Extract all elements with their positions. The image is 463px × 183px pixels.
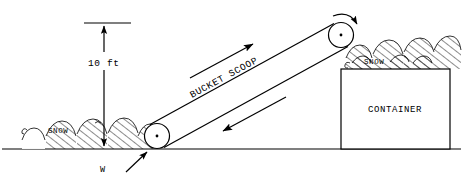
bucket-scoop-diagram: SNOW CONTAINER SNOW — [0, 0, 463, 183]
container-box: CONTAINER — [341, 69, 450, 149]
height-dimension-label: 10 ft — [88, 58, 120, 69]
bottom-pulley — [145, 124, 170, 149]
load-force-indicator: W — [100, 152, 147, 175]
snow-pile-ground: SNOW — [22, 118, 158, 149]
snow-container-label: SNOW — [364, 58, 384, 66]
load-force-label: W — [100, 165, 106, 175]
conveyor-belt — [150, 24, 348, 148]
belt-label: BUCKET SCOOP — [188, 55, 260, 101]
belt-label-group: BUCKET SCOOP — [188, 55, 260, 101]
container-label: CONTAINER — [368, 105, 422, 115]
diagram-canvas: SNOW CONTAINER SNOW — [0, 0, 463, 183]
top-pulley — [329, 23, 354, 48]
belt-direction-down-arrow — [223, 97, 286, 131]
snow-ground-label: SNOW — [48, 127, 68, 135]
snow-pile-container: SNOW — [345, 36, 461, 69]
